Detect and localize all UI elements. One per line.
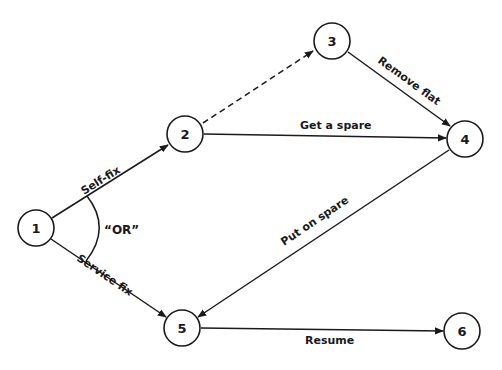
edge-1-5: Service fix [51, 239, 166, 317]
edge-label-service-fix: Service fix [74, 252, 135, 299]
edge-4-5: Put on spare [198, 150, 449, 317]
or-annotation: “OR” [86, 196, 139, 261]
node-2-label: 2 [180, 127, 189, 142]
node-2: 2 [167, 116, 203, 152]
edge-label-remove-flat: Remove flat [375, 54, 443, 108]
edge-2-4: Get a spare [204, 119, 446, 138]
node-1-label: 1 [31, 221, 40, 236]
edge-label-get-a-spare: Get a spare [300, 119, 372, 132]
edge-label-put-on-spare: Put on spare [278, 194, 351, 249]
edge-3-4: Remove flat [348, 52, 450, 126]
edge-2-3-dummy [203, 51, 313, 123]
node-4: 4 [447, 121, 483, 157]
edge-1-2: Self-fix [52, 145, 168, 218]
node-1: 1 [18, 210, 54, 246]
edge-label-self-fix: Self-fix [79, 163, 123, 197]
edge-label-resume: Resume [305, 334, 354, 347]
node-6: 6 [444, 313, 480, 349]
node-3-label: 3 [327, 34, 336, 49]
node-3: 3 [314, 23, 350, 59]
node-6-label: 6 [457, 324, 466, 339]
node-5: 5 [164, 310, 200, 346]
edge-5-6: Resume [201, 328, 443, 347]
node-4-label: 4 [460, 132, 469, 147]
activity-network-diagram: Self-fix Service fix Get a spare Remove … [0, 0, 502, 370]
or-label: “OR” [104, 223, 139, 237]
node-5-label: 5 [177, 321, 186, 336]
